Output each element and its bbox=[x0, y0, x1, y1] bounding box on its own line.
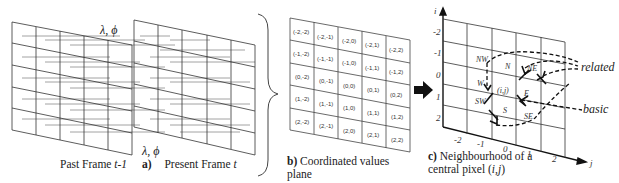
panel-b-caption-line2: plane bbox=[287, 168, 389, 181]
cell-label: (-2,-2) bbox=[293, 29, 309, 35]
cell-label: (1,1) bbox=[367, 110, 379, 116]
cell-label: (1,-1) bbox=[319, 101, 333, 107]
panel-c-caption-suffix: ) bbox=[501, 163, 505, 175]
i-axis-label: i bbox=[434, 6, 437, 16]
cell-label: (-2,1) bbox=[365, 42, 379, 48]
direction-se-label: SE bbox=[524, 112, 533, 121]
cell-label: (-2,2) bbox=[389, 47, 403, 53]
cell-label: (0,-1) bbox=[319, 78, 333, 84]
cell-label: (-1,0) bbox=[342, 60, 356, 66]
cell-label: (2,1) bbox=[367, 132, 379, 138]
top-lambda-phi-label: λ, ϕ bbox=[99, 23, 117, 37]
j-axis-label: j bbox=[589, 158, 593, 168]
past-frame-var: t-1 bbox=[114, 158, 127, 170]
cell-label: (0,0) bbox=[343, 83, 355, 89]
cell-label: (1,0) bbox=[343, 105, 355, 111]
panel-a-letter: a) bbox=[142, 158, 152, 170]
panel-c-caption-var: i,j bbox=[492, 163, 501, 175]
cell-label: (-2,0) bbox=[342, 38, 356, 44]
legend-basic: basic bbox=[583, 102, 609, 116]
panel-b-caption-line1: Coordinated values bbox=[297, 155, 389, 167]
cell-label: (1,2) bbox=[391, 114, 403, 120]
cell-label: (2,2) bbox=[391, 137, 403, 143]
cell-label: (1,-2) bbox=[295, 96, 309, 102]
cell-label: (2,-1) bbox=[319, 123, 333, 129]
present-frame-label: Present Frame bbox=[164, 158, 233, 170]
center-pixel-label: (i,j) bbox=[497, 86, 509, 95]
curly-brace bbox=[258, 14, 278, 176]
caption-a: Past Frame t-1 a) Present Frame t bbox=[60, 158, 237, 171]
direction-sw-label: SW bbox=[475, 97, 487, 106]
i-tick: 2 bbox=[436, 113, 441, 123]
past-frame-label: Past Frame bbox=[60, 158, 114, 170]
direction-s-label: S bbox=[503, 106, 507, 115]
cell-label: (-1,-2) bbox=[293, 51, 309, 57]
direction-n-label: N bbox=[504, 62, 511, 71]
cell-label: (0,-2) bbox=[295, 74, 309, 80]
i-tick: 0 bbox=[436, 70, 441, 80]
present-frame-var: t bbox=[233, 158, 236, 170]
direction-w-label: W bbox=[477, 79, 485, 88]
past-frame-hatch bbox=[22, 36, 175, 132]
cell-label: (-1,-1) bbox=[317, 56, 333, 62]
direction-ne-label: NE bbox=[526, 64, 537, 73]
panel-c-caption-line1: Neighbourhood of a bbox=[437, 150, 533, 162]
j-tick: -1 bbox=[477, 139, 485, 149]
diagram-stage: λ, ϕ λ, ϕ (-2,-2) (-2,-1) (-2,0) (-2,1) … bbox=[0, 0, 619, 183]
i-tick: -1 bbox=[434, 48, 442, 58]
bottom-lambda-phi-label: λ, ϕ bbox=[141, 144, 159, 158]
past-frame-grid bbox=[12, 22, 175, 155]
legend-related: related bbox=[581, 60, 616, 74]
i-axis-arrowhead bbox=[440, 8, 446, 15]
cell-label: (2,0) bbox=[343, 128, 355, 134]
j-tick: 2 bbox=[552, 154, 557, 164]
present-frame-grid bbox=[134, 20, 255, 155]
direction-e-label: E bbox=[523, 89, 529, 98]
present-frame-hatch bbox=[140, 36, 255, 132]
cell-label: (0,2) bbox=[390, 92, 402, 98]
panel-b-letter: b) bbox=[287, 155, 297, 167]
cell-label: (-1,2) bbox=[389, 69, 403, 75]
cell-label: (-1,1) bbox=[365, 65, 379, 71]
cell-label: (2,-2) bbox=[295, 119, 309, 125]
neighbour-arrowheads bbox=[484, 66, 546, 124]
direction-nw-label: NW bbox=[475, 55, 489, 64]
i-tick: 1 bbox=[436, 92, 441, 102]
panel-c-letter: c) bbox=[428, 150, 437, 162]
i-tick: -2 bbox=[433, 27, 441, 37]
caption-b: b) Coordinated values plane bbox=[287, 155, 389, 181]
cell-label: (0,1) bbox=[367, 87, 379, 93]
panel-c-caption-prefix: central pixel ( bbox=[428, 163, 492, 175]
j-tick: -2 bbox=[454, 135, 462, 145]
right-arrow-icon bbox=[414, 81, 433, 99]
caption-c: c) Neighbourhood of a central pixel (i,j… bbox=[428, 150, 532, 176]
cell-label: (-2,-1) bbox=[317, 34, 333, 40]
j-axis-arrowhead bbox=[577, 158, 586, 164]
